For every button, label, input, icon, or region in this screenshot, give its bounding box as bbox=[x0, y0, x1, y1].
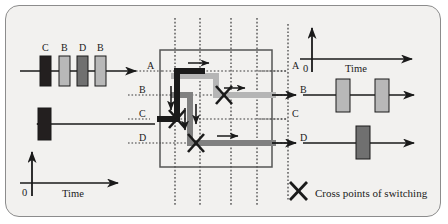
switch-input-label-d: D bbox=[139, 132, 146, 143]
switch-output-label-c: C bbox=[292, 108, 299, 119]
input-axis-origin-label: 0 bbox=[22, 187, 27, 198]
switch-output-label-b: B bbox=[300, 84, 307, 95]
input-axis-time-label: Time bbox=[62, 188, 84, 199]
switch-input-label-c: C bbox=[139, 108, 146, 119]
output-line-b bbox=[303, 79, 414, 112]
output-line-d bbox=[303, 126, 414, 159]
output-axis-time-label: Time bbox=[345, 63, 367, 74]
input-line-a bbox=[20, 56, 136, 86]
diagram-canvas: 0 Time C B D B A B C D bbox=[0, 0, 448, 224]
switch-output-label-a: A bbox=[292, 60, 300, 71]
output-axis-origin-label: 0 bbox=[303, 63, 308, 74]
input-cell-label-3: B bbox=[97, 42, 104, 53]
switch-grid-horizontal bbox=[162, 71, 288, 143]
cross-icon bbox=[290, 182, 307, 200]
input-cell-label-1: B bbox=[61, 42, 68, 53]
input-cell-label-0: C bbox=[42, 42, 49, 53]
switch-input-label-a: A bbox=[147, 60, 155, 71]
diagram-stage: 0 Time C B D B A B C D bbox=[0, 0, 448, 224]
switch-input-label-b: B bbox=[139, 84, 146, 95]
input-cell-label-2: D bbox=[79, 42, 86, 53]
input-line-c bbox=[37, 108, 155, 140]
switch-output-label-d: D bbox=[300, 132, 307, 143]
legend-label: Cross points of switching bbox=[315, 187, 428, 199]
